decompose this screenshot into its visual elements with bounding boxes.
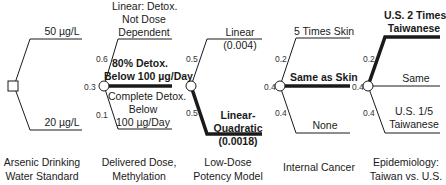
caption-line: Water Standard (0, 169, 84, 183)
caption-line: Internal Cancer (282, 160, 356, 174)
label-line: Dependent (112, 26, 176, 39)
label-line: Complete Detox. (108, 90, 178, 103)
stage1-caption: Arsenic Drinking Water Standard (0, 155, 84, 183)
branch-label-80-detox: 80% Detox. Below 100 µg/Day (104, 57, 176, 83)
label-line: 100 µg/Day (108, 116, 178, 129)
label-line: Taiwanese (384, 22, 444, 35)
chance-node-circle (363, 81, 373, 91)
label-line: (0.004) (214, 39, 266, 52)
chance-node-circle (275, 81, 285, 91)
caption-line: Delivered Dose, (96, 155, 182, 169)
prob-label: 0.4 (275, 108, 287, 118)
label-line: Below (108, 103, 178, 116)
caption-line: Low-Dose (192, 155, 264, 169)
decision-node-square (8, 81, 18, 91)
label-line: Linear- (210, 109, 266, 122)
prob-label: 0.4 (363, 108, 375, 118)
label-line: Below 100 µg/Day (104, 70, 176, 83)
branch-label-none: None (300, 119, 350, 132)
branch-label-linear: Linear (0.004) (214, 26, 266, 52)
branch-label-linear-detox: Linear: Detox. Not Dose Dependent (112, 0, 176, 39)
caption-line: Taiwan vs. U.S. (366, 169, 446, 183)
branch-label-us-1-5: U.S. 1/5 Taiwanese (386, 105, 442, 131)
prob-label: 0.5 (186, 54, 198, 64)
prob-label: 0.2 (363, 54, 375, 64)
stage5-caption: Epidemiology: Taiwan vs. U.S. (366, 155, 446, 183)
branch-label-20: 20 µg/L (40, 116, 84, 129)
label-line: Quadratic (210, 122, 266, 135)
chance-node-circle (186, 81, 196, 91)
label-line: Not Dose (112, 13, 176, 26)
caption-line: Arsenic Drinking (0, 155, 84, 169)
caption-line: Epidemiology: (366, 155, 446, 169)
label-line: Linear (214, 26, 266, 39)
branch-label-linear-quadratic: Linear- Quadratic (0.0018) (210, 109, 266, 148)
stage3-caption: Low-Dose Potency Model (192, 155, 264, 183)
label-line: (0.0018) (210, 135, 266, 148)
prob-label: 0.2 (275, 54, 287, 64)
branch-label-same-as-skin: Same as Skin (290, 71, 354, 84)
prob-label: 0.3 (84, 82, 96, 92)
prob-label: 0.4 (352, 82, 364, 92)
label-line: U.S. 2 Times (384, 9, 444, 22)
label-line: U.S. 1/5 (386, 105, 442, 118)
label-line: Taiwanese (386, 118, 442, 131)
prob-label: 0.4 (264, 82, 276, 92)
stage2-caption: Delivered Dose, Methylation (96, 155, 182, 183)
prob-label: 0.1 (96, 110, 108, 120)
branch-label-us-2-times: U.S. 2 Times Taiwanese (384, 9, 444, 35)
caption-line: Methylation (96, 169, 182, 183)
branch-label-5-times-skin: 5 Times Skin (294, 25, 354, 38)
prob-label: 0.5 (186, 108, 198, 118)
branch-label-complete-detox: Complete Detox. Below 100 µg/Day (108, 90, 178, 129)
branch-label-same: Same (394, 72, 438, 85)
label-line: 80% Detox. (104, 57, 176, 70)
label-line: Linear: Detox. (112, 0, 176, 13)
caption-line: Potency Model (192, 169, 264, 183)
stage4-caption: Internal Cancer (282, 160, 356, 174)
branch-label-50: 50 µg/L (40, 25, 84, 38)
